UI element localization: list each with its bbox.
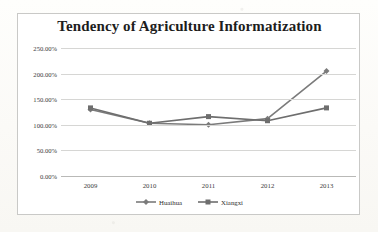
legend-marker-square-icon bbox=[198, 198, 218, 206]
legend-marker-diamond-icon bbox=[136, 198, 156, 206]
x-axis-tick-label: 2010 bbox=[143, 182, 157, 189]
y-axis-tick-label: 50.00% bbox=[37, 147, 57, 154]
data-point-xiangxi-2013 bbox=[324, 105, 329, 110]
legend-item-huaihua[interactable]: Huaihua bbox=[136, 198, 182, 206]
legend-item-xiangxi[interactable]: Xiangxi bbox=[198, 198, 243, 206]
y-axis-tick-label: 0.00% bbox=[40, 173, 57, 180]
gridline bbox=[61, 48, 356, 49]
gridline bbox=[61, 150, 356, 151]
gridline bbox=[61, 125, 356, 126]
gridline bbox=[61, 74, 356, 75]
y-axis-tick-label: 100.00% bbox=[33, 121, 57, 128]
y-axis-tick-label: 250.00% bbox=[33, 45, 57, 52]
data-point-xiangxi-2012 bbox=[265, 118, 270, 123]
x-axis-tick-label: 2013 bbox=[320, 182, 334, 189]
legend-label: Xiangxi bbox=[221, 199, 243, 206]
chart-legend: HuaihuaXiangxi bbox=[18, 198, 361, 206]
series-lines bbox=[61, 48, 356, 176]
chart-container: Tendency of Agriculture Informatization … bbox=[17, 13, 360, 215]
y-axis-tick-label: 200.00% bbox=[33, 70, 57, 77]
plot-area: 0.00%50.00%100.00%150.00%200.00%250.00%2… bbox=[61, 48, 356, 176]
x-axis-tick-label: 2012 bbox=[261, 182, 275, 189]
gridline bbox=[61, 99, 356, 100]
legend-label: Huaihua bbox=[159, 199, 182, 206]
x-axis-tick-label: 2009 bbox=[84, 182, 98, 189]
chart-title: Tendency of Agriculture Informatization bbox=[18, 18, 361, 35]
x-axis-tick-label: 2011 bbox=[202, 182, 215, 189]
y-axis-tick-label: 150.00% bbox=[33, 96, 57, 103]
x-axis-line bbox=[61, 176, 356, 177]
data-point-xiangxi-2011 bbox=[206, 114, 211, 119]
data-point-xiangxi-2009 bbox=[88, 105, 93, 110]
